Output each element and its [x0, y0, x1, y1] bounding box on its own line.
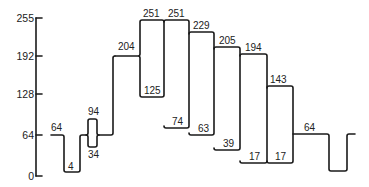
label-251-b: 251 [168, 8, 185, 19]
label-39: 39 [223, 138, 235, 149]
label-204: 204 [118, 41, 135, 52]
tail-64 [293, 134, 355, 171]
tick-label-255: 255 [16, 12, 34, 24]
tick-label-128: 128 [16, 88, 34, 100]
label-229: 229 [193, 20, 210, 31]
label-205: 205 [219, 35, 236, 46]
box-205-39 [214, 47, 240, 150]
box-194-17 [240, 54, 267, 163]
tick-label-64: 64 [22, 129, 34, 141]
label-17-b: 17 [275, 151, 287, 162]
label-64-start: 64 [51, 122, 63, 133]
box-251-74 [164, 20, 189, 128]
tick-label-0: 0 [28, 170, 34, 182]
label-34: 34 [88, 149, 100, 160]
label-63: 63 [198, 123, 210, 134]
label-251-a: 251 [143, 8, 160, 19]
label-94: 94 [88, 106, 100, 117]
waveform-path [51, 56, 115, 172]
split-94-34 [86, 135, 99, 147]
label-125: 125 [144, 85, 161, 96]
label-64-end: 64 [304, 122, 316, 133]
tick-label-192: 192 [16, 50, 34, 62]
label-4: 4 [68, 161, 74, 172]
label-194: 194 [245, 42, 262, 53]
label-17-a: 17 [249, 151, 261, 162]
label-143: 143 [270, 74, 287, 85]
label-74: 74 [172, 116, 184, 127]
box-229-63 [189, 32, 214, 135]
level-diagram: 255 192 128 64 0 64 4 94 34 204 251 125 … [0, 0, 369, 187]
